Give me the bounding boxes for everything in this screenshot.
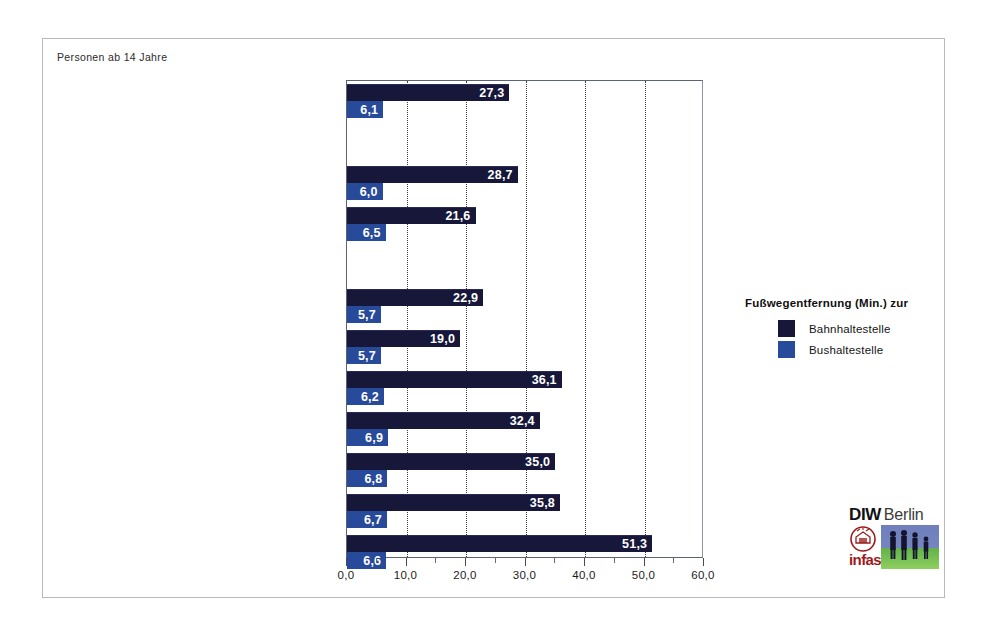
legend-swatch-icon-bahnhaltestelle xyxy=(778,320,795,337)
bar-bushaltestelle: 6,9 xyxy=(347,429,388,446)
bar-value-label: 6,7 xyxy=(364,513,382,527)
x-tick-minor xyxy=(495,558,496,563)
bar-bahnhaltestelle: 28,7 xyxy=(347,166,518,183)
legend-label-bahnhaltestelle: Bahnhaltestelle xyxy=(809,323,891,335)
bar-bahnhaltestelle: 32,4 xyxy=(347,412,540,429)
infas-seal-icon xyxy=(850,526,876,552)
x-tick-minor xyxy=(435,558,436,563)
bar-bushaltestelle: 6,7 xyxy=(347,511,387,528)
x-axis: 0,010,020,030,040,050,060,0 xyxy=(346,558,703,598)
x-tick xyxy=(703,558,704,566)
bar-value-label: 27,3 xyxy=(479,86,504,100)
bar-bushaltestelle: 5,7 xyxy=(347,306,381,323)
bars-layer: 27,36,128,76,021,66,522,95,719,05,736,16… xyxy=(347,81,702,557)
x-tick-label: 0,0 xyxy=(338,569,355,581)
bar-bahnhaltestelle: 22,9 xyxy=(347,289,483,306)
bar-value-label: 51,3 xyxy=(622,537,647,551)
x-tick-label: 60,0 xyxy=(691,569,715,581)
x-tick-label: 40,0 xyxy=(572,569,596,581)
bar-value-label: 6,8 xyxy=(364,472,382,486)
bar-value-label: 22,9 xyxy=(453,291,478,305)
infas-text: infas xyxy=(849,552,881,567)
bar-bahnhaltestelle: 21,6 xyxy=(347,207,476,224)
bar-bushaltestelle: 6,8 xyxy=(347,470,387,487)
people-silhouettes-icon xyxy=(881,525,939,569)
bar-value-label: 6,1 xyxy=(360,103,378,117)
figure-frame: Personen ab 14 Jahre insgesamtWestOsthoc… xyxy=(42,38,945,598)
x-tick-label: 30,0 xyxy=(513,569,537,581)
bar-bushaltestelle: 6,5 xyxy=(347,224,386,241)
x-tick-label: 20,0 xyxy=(453,569,477,581)
bar-bushaltestelle: 6,1 xyxy=(347,101,383,118)
bar-value-label: 5,7 xyxy=(358,308,376,322)
bar-bahnhaltestelle: 51,3 xyxy=(347,535,652,552)
bar-bahnhaltestelle: 35,8 xyxy=(347,494,560,511)
x-tick xyxy=(584,558,585,566)
x-tick xyxy=(525,558,526,566)
x-tick-minor xyxy=(673,558,674,563)
bar-bushaltestelle: 5,7 xyxy=(347,347,381,364)
legend-item-bushaltestelle: Bushaltestelle xyxy=(778,341,935,358)
bar-value-label: 6,0 xyxy=(360,185,378,199)
bar-value-label: 35,8 xyxy=(530,496,555,510)
logo-photo xyxy=(881,525,939,569)
bar-value-label: 35,0 xyxy=(525,455,550,469)
publisher-logo: DIWBerlin infas xyxy=(849,506,941,570)
diw-berlin-wordmark: DIWBerlin xyxy=(849,506,924,523)
x-tick xyxy=(644,558,645,566)
bar-bahnhaltestelle: 36,1 xyxy=(347,371,562,388)
x-tick xyxy=(465,558,466,566)
x-tick xyxy=(406,558,407,566)
x-tick xyxy=(346,558,347,566)
bar-value-label: 32,4 xyxy=(510,414,535,428)
bar-value-label: 28,7 xyxy=(488,168,513,182)
legend-swatch-icon-bushaltestelle xyxy=(778,341,795,358)
plot-area: 27,36,128,76,021,66,522,95,719,05,736,16… xyxy=(346,80,703,558)
x-tick-minor xyxy=(554,558,555,563)
bar-value-label: 19,0 xyxy=(430,332,455,346)
bar-bushaltestelle: 6,2 xyxy=(347,388,384,405)
legend-title: Fußwegentfernung (Min.) zur xyxy=(745,297,935,309)
berlin-text: Berlin xyxy=(884,506,924,523)
legend-label-bushaltestelle: Bushaltestelle xyxy=(809,344,883,356)
bar-bahnhaltestelle: 27,3 xyxy=(347,84,509,101)
bar-bahnhaltestelle: 19,0 xyxy=(347,330,460,347)
bar-value-label: 6,9 xyxy=(365,431,383,445)
x-tick-label: 50,0 xyxy=(632,569,656,581)
legend-item-bahnhaltestelle: Bahnhaltestelle xyxy=(778,320,935,337)
x-tick-label: 10,0 xyxy=(394,569,418,581)
diw-text: DIW xyxy=(849,505,881,524)
figure-caption: Personen ab 14 Jahre xyxy=(57,51,167,63)
bar-bushaltestelle: 6,0 xyxy=(347,183,383,200)
bar-value-label: 21,6 xyxy=(445,209,470,223)
bar-value-label: 6,5 xyxy=(363,226,381,240)
chart-legend: Fußwegentfernung (Min.) zur Bahnhalteste… xyxy=(745,297,935,362)
bar-value-label: 5,7 xyxy=(358,349,376,363)
bar-bahnhaltestelle: 35,0 xyxy=(347,453,555,470)
bar-value-label: 36,1 xyxy=(532,373,557,387)
x-tick-minor xyxy=(376,558,377,563)
x-tick-minor xyxy=(614,558,615,563)
bar-value-label: 6,2 xyxy=(361,390,379,404)
